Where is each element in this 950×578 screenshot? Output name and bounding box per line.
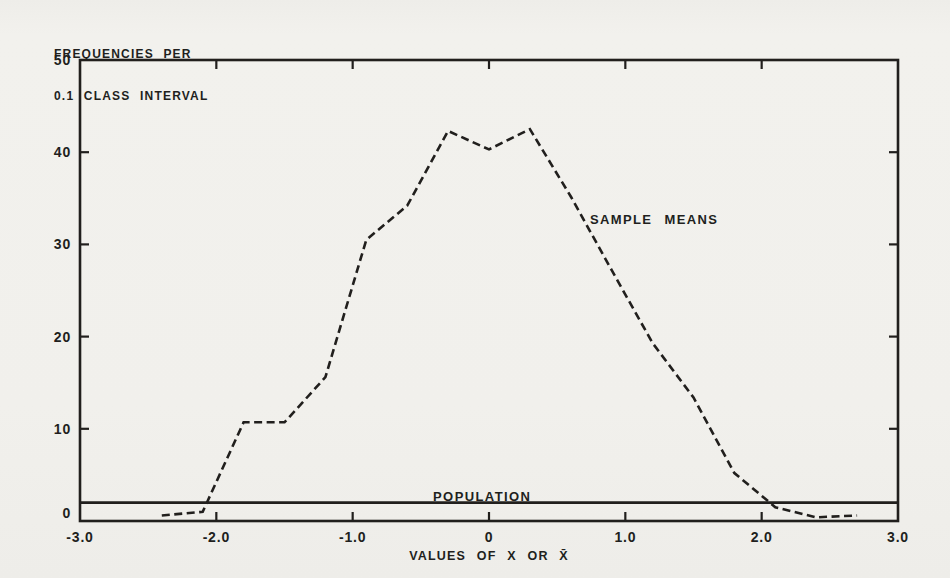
x-axis-label: VALUES OF X OR X̄ xyxy=(409,549,569,563)
y-tick-label: 10 xyxy=(54,421,71,437)
x-tick-label: -1.0 xyxy=(339,529,366,545)
scanned-figure-page: FREQUENCIES PER 0.1 CLASS INTERVAL -3.0-… xyxy=(0,0,950,578)
y-tick-label: 40 xyxy=(54,144,71,160)
y-tick-label: 0 xyxy=(62,505,71,521)
x-tick-label: -3.0 xyxy=(66,529,93,545)
series-sample-means xyxy=(162,129,857,517)
x-tick-label: 3.0 xyxy=(887,529,909,545)
y-tick-label: 50 xyxy=(54,52,71,68)
x-tick-label: -2.0 xyxy=(203,529,230,545)
annotation-sample-means: SAMPLE MEANS xyxy=(590,212,719,227)
y-tick-label: 30 xyxy=(54,236,71,252)
plot-border xyxy=(80,60,898,521)
x-tick-label: 0 xyxy=(485,529,494,545)
annotation-population: POPULATION xyxy=(433,489,531,504)
x-tick-label: 1.0 xyxy=(614,529,636,545)
y-tick-label: 20 xyxy=(54,329,71,345)
x-tick-label: 2.0 xyxy=(751,529,773,545)
frequency-polygon-chart: -3.0-2.0-1.001.02.03.001020304050SAMPLE … xyxy=(0,0,950,578)
